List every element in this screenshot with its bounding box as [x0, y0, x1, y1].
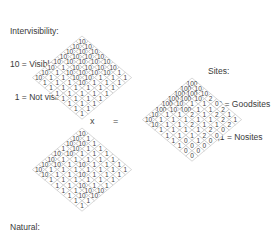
grid-cell-value: 1	[43, 79, 47, 86]
grid-cell-value: 10	[91, 192, 99, 199]
grid-cell-value: 2	[215, 111, 219, 118]
grid-cell-value: 1	[68, 79, 72, 86]
grid-cell-value: 1	[196, 106, 200, 113]
grid-cell-value: 1	[86, 84, 90, 91]
intervisibility-grid: 1010101010101110101010101011101010101011…	[32, 36, 131, 119]
grid-cell-value: 1	[68, 171, 72, 178]
grid-cell-value: 10	[151, 121, 159, 128]
grid-cell-value: 2	[221, 106, 225, 113]
grid-cell-value: 2	[190, 111, 194, 118]
grid-cell-value: 10	[41, 69, 49, 76]
grid-cell-value: 10	[78, 171, 86, 178]
grid-cell-value: 1	[74, 156, 78, 163]
grid-cell-value: 1	[62, 84, 66, 91]
grid-cell-value: 1	[68, 182, 72, 189]
grid-cell-value: 1	[55, 171, 59, 178]
grid-cell-value: 10	[97, 187, 105, 194]
grid-cell-value: 1	[178, 111, 182, 118]
grid-cell-value: 1	[55, 69, 59, 76]
grid-cell-value: 10	[85, 74, 93, 81]
grid-cell-value: 10	[54, 161, 62, 168]
grid-cell-value: 1	[80, 100, 84, 107]
grid-cell-value: 2	[209, 95, 213, 102]
grid-cell-value: 1	[196, 137, 200, 144]
grid-cell-value: 1	[99, 84, 103, 91]
grid-cell-value: 1	[172, 126, 176, 133]
grid-cell-value: 1	[93, 171, 97, 178]
grid-cell-value: 1	[159, 116, 163, 123]
grid-cell-value: 1	[74, 166, 78, 173]
grid-cell-value: 1	[68, 100, 72, 107]
grid-cell-value: 1	[62, 95, 66, 102]
grid-cell-value: 0	[203, 142, 207, 149]
grid-cell-value: 1	[111, 156, 115, 163]
grid-cell-value: 1	[234, 116, 238, 123]
grid-cell-value: 1	[80, 150, 84, 157]
grid-cell-value: 1	[203, 121, 207, 128]
grid-cell-value: 1	[99, 74, 103, 81]
grid-cell-value: 1	[74, 84, 78, 91]
grid-cell-value: 1	[196, 116, 200, 123]
grid-cell-value: 1	[111, 84, 115, 91]
raster-grids-diagram: 1010101010101110101010101011101010101011…	[0, 0, 277, 237]
grid-cell-value: 1	[165, 121, 169, 128]
grid-cell-value: 1	[124, 166, 128, 173]
grid-cell-value: 10	[78, 192, 86, 199]
grid-cell-value: 1	[172, 116, 176, 123]
grid-cell-value: 2	[227, 121, 231, 128]
grid-cell-value: 1	[62, 74, 66, 81]
grid-cell-value: 1	[203, 100, 207, 107]
grid-cell-value: 1	[86, 105, 90, 112]
grid-cell-value: 1	[117, 69, 121, 76]
grid-cell-value: 10	[195, 95, 203, 102]
grid-cell-value: 1	[93, 90, 97, 97]
grid-cell-value: 1	[62, 156, 66, 163]
grid-cell-value: 1	[99, 156, 103, 163]
grid-cell-value: 10	[78, 140, 86, 147]
grid-cell-value: 1	[62, 176, 66, 183]
grid-cell-value: 1	[49, 166, 53, 173]
grid-cell-value: 10	[78, 130, 86, 137]
grid-cell-value: 1	[55, 90, 59, 97]
grid-cell-value: 1	[124, 74, 128, 81]
grid-cell-value: 1	[184, 126, 188, 133]
grid-cell-value: 1	[93, 150, 97, 157]
grid-cell-value: 1	[105, 150, 109, 157]
grid-cell-value: 1	[55, 182, 59, 189]
grid-cell-value: 1	[215, 121, 219, 128]
grid-cell-value: 0	[190, 152, 194, 159]
grid-cell-value: 1	[165, 111, 169, 118]
grid-cell-value: 1	[68, 161, 72, 168]
grid-cell-value: 10	[72, 145, 80, 152]
grid-cell-value: 1	[105, 182, 109, 189]
grid-cell-value: 1	[117, 161, 121, 168]
grid-cell-value: 1	[80, 90, 84, 97]
grid-cell-value: 10	[78, 79, 86, 86]
grid-cell-value: 1	[93, 161, 97, 168]
grid-cell-value: 1	[80, 202, 84, 209]
grid-cell-value: 1	[99, 145, 103, 152]
grid-cell-value: 1	[105, 161, 109, 168]
grid-cell-value: 2	[221, 116, 225, 123]
grid-cell-value: 1	[105, 79, 109, 86]
grid-cell-value: 1	[111, 166, 115, 173]
grid-cell-value: 1	[86, 197, 90, 204]
grid-cell-value: 10	[170, 106, 178, 113]
grid-cell-value: 10	[151, 111, 159, 118]
grid-cell-value: 0	[190, 142, 194, 149]
grid-cell-value: 10	[47, 64, 55, 71]
grid-cell-value: 1	[184, 116, 188, 123]
grid-cell-value: 10	[66, 150, 74, 157]
grid-cell-value: 1	[172, 137, 176, 144]
grid-cell-value: 1	[49, 74, 53, 81]
grid-cell-value: 1	[55, 79, 59, 86]
grid-cell-value: 1	[93, 79, 97, 86]
grid-cell-value: 2	[203, 132, 207, 139]
grid-cell-value: 1	[86, 166, 90, 173]
grid-cell-value: 1	[190, 132, 194, 139]
natural-grid: 1011111111010111111101011111111011011111…	[32, 128, 131, 211]
grid-cell-value: 0	[215, 100, 219, 107]
grid-cell-value: 1	[159, 126, 163, 133]
grid-cell-value: 1	[80, 110, 84, 117]
grid-cell-value: 1	[62, 166, 66, 173]
